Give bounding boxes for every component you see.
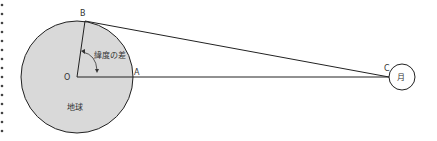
- dotted-margin: [1, 4, 4, 133]
- earth-moon-diagram: B O A C 月 地球 緯度の差: [0, 0, 437, 141]
- label-earth: 地球: [67, 102, 83, 112]
- label-O: O: [64, 73, 70, 82]
- label-B: B: [80, 9, 86, 18]
- label-A: A: [134, 68, 140, 77]
- label-latitude-diff: 緯度の差: [94, 50, 126, 60]
- label-C: C: [384, 64, 390, 73]
- label-moon: 月: [397, 73, 405, 82]
